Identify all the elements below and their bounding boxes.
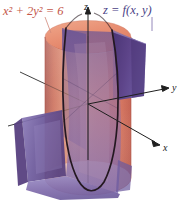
axis-label-y: y [172, 83, 176, 93]
figure-canvas: x² + 2y² = 6 z = f(x, y) z y x [0, 0, 181, 204]
axis-y-arrowhead [162, 86, 170, 92]
cylinder-equation-label: x² + 2y² = 6 [3, 5, 63, 18]
axis-label-x: x [163, 143, 167, 153]
three-d-scene [0, 0, 181, 204]
axis-label-z: z [84, 2, 88, 12]
surface-equation-label: z = f(x, y) [103, 4, 152, 17]
axis-x-arrowhead [152, 141, 160, 147]
saddle-central-band [62, 30, 121, 194]
